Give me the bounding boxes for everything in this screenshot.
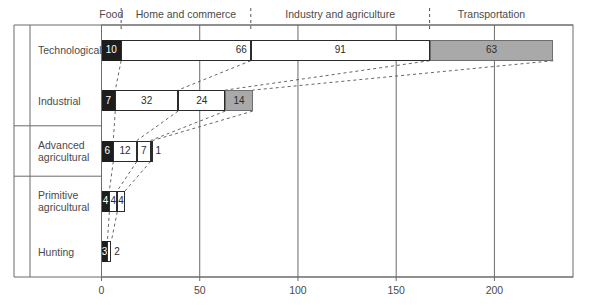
row-label-line: agricultural bbox=[38, 201, 89, 213]
row-label-primitive-agricultural: Primitiveagricultural bbox=[38, 189, 89, 213]
bar-value-label: 66 bbox=[225, 44, 247, 55]
bar-value-label: 4 bbox=[101, 195, 141, 206]
x-tick-100: 100 bbox=[278, 284, 318, 296]
row-label-advanced-agricultural: Advancedagricultural bbox=[38, 139, 89, 163]
bar-value-label: 63 bbox=[471, 44, 511, 55]
row-label-line: Hunting bbox=[38, 246, 74, 258]
bar-value-label: 32 bbox=[127, 95, 167, 106]
x-tick-150: 150 bbox=[376, 284, 416, 296]
row-label-hunting: Hunting bbox=[38, 246, 74, 258]
row-label-line: Primitive bbox=[38, 189, 89, 201]
bar-value-label: 24 bbox=[182, 95, 222, 106]
x-tick-0: 0 bbox=[82, 284, 122, 296]
bar-segment-transportation[interactable] bbox=[151, 141, 153, 162]
stacked-bar-chart: FoodHome and commerceIndustry and agricu… bbox=[0, 0, 591, 308]
x-tick-200: 200 bbox=[474, 284, 514, 296]
x-tick-50: 50 bbox=[180, 284, 220, 296]
bar-segment-home-and-commerce[interactable] bbox=[107, 241, 111, 262]
bar-value-label: 1 bbox=[156, 145, 176, 156]
bar-value-label: 14 bbox=[219, 95, 259, 106]
row-label-industrial: Industrial bbox=[38, 95, 81, 107]
bar-value-label: 2 bbox=[114, 246, 134, 257]
category-label-transportation: Transportation bbox=[401, 8, 581, 20]
row-label-line: Industrial bbox=[38, 95, 81, 107]
row-label-line: Advanced bbox=[38, 139, 89, 151]
row-label-line: agricultural bbox=[38, 151, 89, 163]
category-label-home-and-commerce: Home and commerce bbox=[96, 8, 276, 20]
bar-value-label: 91 bbox=[320, 44, 360, 55]
